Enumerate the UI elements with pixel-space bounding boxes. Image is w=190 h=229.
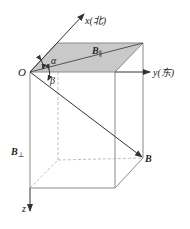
alpha-label: α [51,55,57,66]
x-axis-label: x(北) [84,15,107,27]
beta-label: β [49,75,55,86]
y-axis-label: y(东) [152,67,175,79]
b-vector [30,72,142,157]
b-vector-label: B [144,153,152,164]
origin-label: O [18,66,26,78]
z-axis-label: z [21,203,26,214]
b-perp-sub: ⊥ [18,151,25,159]
magnetic-field-decomposition-diagram: O x(北) y(东) z α β B∥ B⊥ B [0,0,190,229]
b-perp-label: B⊥ [10,146,24,159]
hidden-edges [30,72,143,188]
b-parallel-sub: ∥ [99,50,102,58]
